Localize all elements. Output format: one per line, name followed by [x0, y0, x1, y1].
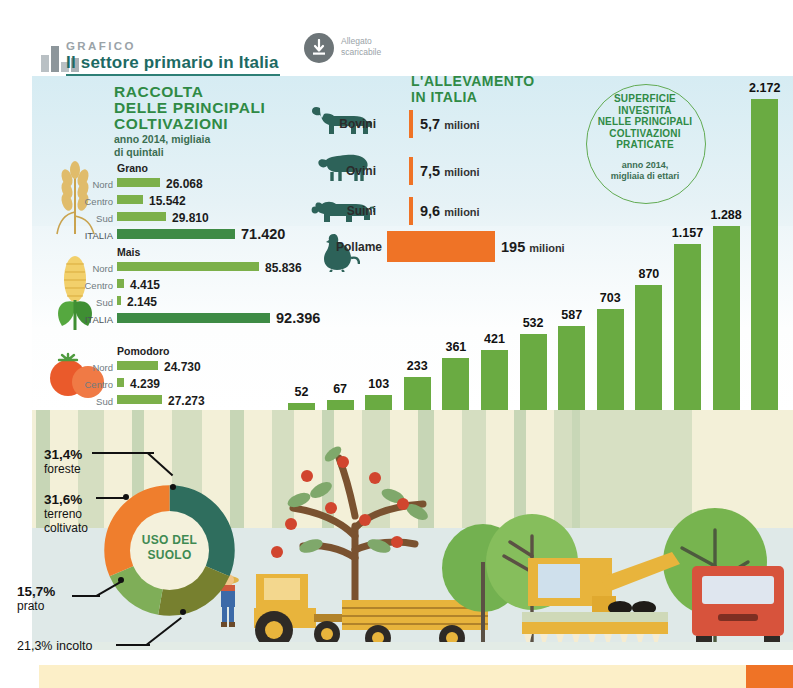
leader-coltivato	[96, 497, 126, 499]
dot-prato	[118, 577, 124, 583]
dot-foreste	[170, 484, 176, 490]
dot-incolto	[180, 609, 186, 615]
download-label: Allegato scaricabile	[341, 36, 381, 58]
bottom-banner	[39, 665, 793, 688]
column-value: 52	[280, 385, 323, 399]
column-value: 1.288	[705, 208, 748, 222]
page-header: GRAFICO Il settore primario in Italia Al…	[0, 0, 793, 74]
column-value: 361	[434, 340, 477, 354]
column-bar	[713, 226, 740, 410]
download-label-line1: Allegato	[341, 36, 381, 47]
pct-incolto-label: incolto	[56, 639, 92, 653]
download-arrow-icon	[311, 39, 327, 57]
kicker-label: GRAFICO	[66, 40, 136, 52]
download-label-line2: scaricabile	[341, 47, 381, 58]
leader-incolto	[116, 644, 150, 646]
column-bar	[481, 350, 508, 410]
bottom-banner-tab[interactable]	[746, 665, 793, 688]
column-bar	[365, 395, 392, 410]
column-bar	[558, 326, 585, 410]
column-value: 532	[512, 316, 555, 330]
column-bar	[674, 244, 701, 410]
donut-label-line1: USO DEL	[130, 533, 209, 548]
column-bar	[751, 99, 778, 410]
column-value: 233	[396, 359, 439, 373]
page-title: Il settore primario in Italia	[66, 53, 279, 73]
surface-bar-chart: 52Patate67Legumi103Avena233Orzo361Semiol…	[32, 76, 793, 413]
column-bar	[327, 400, 354, 410]
pct-incolto-value: 21,3%	[17, 639, 52, 653]
column-bar	[404, 377, 431, 410]
column-bar	[442, 358, 469, 410]
column-bar	[520, 334, 547, 410]
column-value: 587	[550, 308, 593, 322]
pct-coltivato-label: terreno coltivato	[44, 508, 124, 535]
leader-foreste	[92, 452, 154, 454]
donut-label-line2: SUOLO	[130, 548, 209, 563]
download-attachment-button[interactable]	[304, 33, 334, 63]
donut-center-label: USO DEL SUOLO	[130, 533, 209, 563]
column-value: 67	[319, 382, 362, 396]
pct-coltivato: 31,6%	[44, 492, 82, 507]
dot-coltivato	[123, 494, 129, 500]
column-value: 421	[473, 332, 516, 346]
pct-prato-label: prato	[17, 600, 44, 614]
pct-foreste: 31,4%	[44, 447, 82, 462]
pct-foreste-label: foreste	[44, 463, 81, 477]
column-value: 2.172	[743, 81, 786, 95]
column-bar	[288, 403, 315, 410]
column-bar	[597, 309, 624, 410]
truck-icon	[684, 560, 793, 650]
column-value: 870	[627, 267, 670, 281]
pct-incolto: 21,3% incolto	[17, 638, 92, 653]
column-value: 703	[589, 291, 632, 305]
column-value: 103	[357, 377, 400, 391]
column-bar	[635, 285, 662, 410]
pct-prato: 15,7%	[17, 584, 55, 599]
column-value: 1.157	[666, 226, 709, 240]
